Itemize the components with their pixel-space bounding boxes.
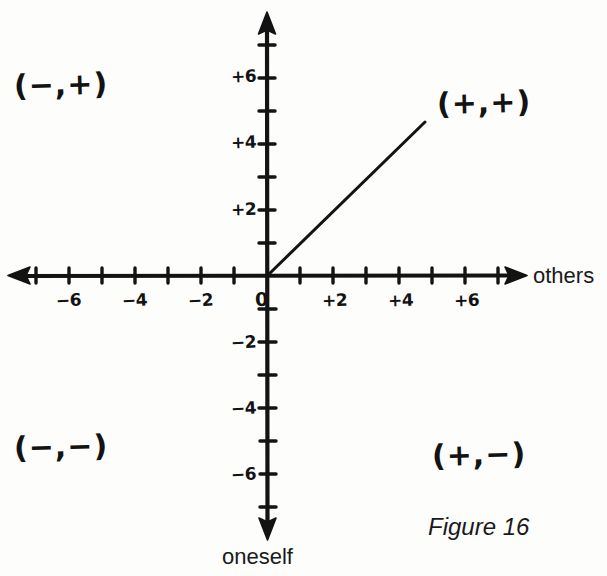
x-tick-label-neg4: −4 — [122, 291, 148, 309]
y-tick-label-pos4: +4 — [231, 134, 257, 152]
y-tick-label-neg6: −6 — [231, 465, 257, 483]
y-tick-label-neg2: −2 — [231, 333, 257, 351]
x-tick-label-pos2: +2 — [322, 292, 348, 310]
y-axis-down-arrowhead — [259, 518, 276, 540]
x-tick-label-pos4: +4 — [388, 292, 414, 310]
win-win-diagonal-line — [267, 122, 425, 276]
figure-caption: Figure 16 — [428, 515, 529, 539]
x-tick-label-pos6: +6 — [454, 292, 480, 310]
x-axis-label-others: others — [533, 265, 594, 287]
y-tick-label-pos6: +6 — [231, 68, 257, 86]
quadrant-2-label: (−,+) — [14, 69, 109, 101]
y-tick-label-pos2: +2 — [231, 201, 257, 219]
x-tick-label-neg6: −6 — [56, 291, 82, 309]
x-tick-label-neg2: −2 — [188, 291, 214, 309]
figure-canvas: −6 −4 −2 0 +2 +4 +6 +6 +4 +2 −2 −4 −6 ot… — [0, 0, 607, 576]
x-axis-right-arrowhead — [505, 267, 527, 284]
y-tick-label-neg4: −4 — [231, 399, 257, 417]
y-axis-up-arrowhead — [259, 12, 276, 34]
x-axis-left-arrowhead — [8, 267, 30, 284]
origin-label: 0 — [255, 290, 268, 309]
quadrant-4-label: (+,−) — [432, 439, 527, 471]
quadrant-3-label: (−,−) — [14, 431, 109, 463]
y-axis-label-oneself: oneself — [222, 546, 293, 568]
quadrant-1-label: (+,+) — [437, 87, 532, 119]
